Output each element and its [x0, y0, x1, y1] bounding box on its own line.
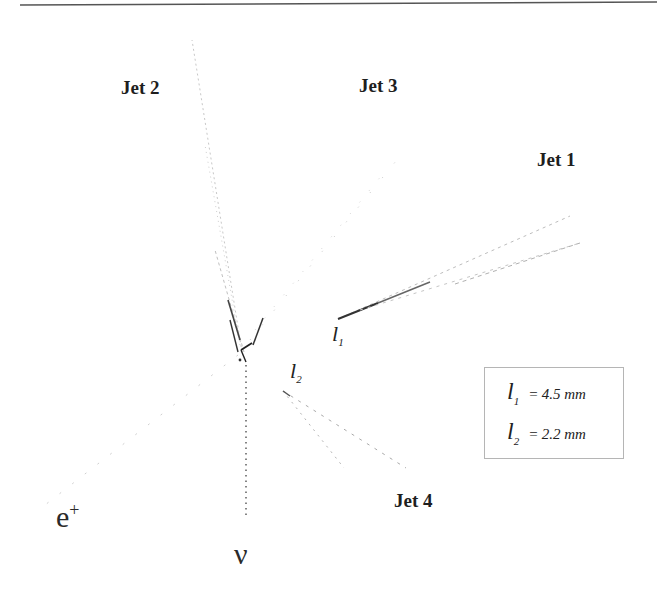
legend-row-l2: l2 = 2.2 mm: [507, 418, 586, 447]
legend-row-l1: l1 = 4.5 mm: [507, 378, 586, 407]
event-display-canvas: [0, 0, 657, 593]
l2-marker: l2: [290, 358, 302, 385]
neutrino-label: ν: [234, 537, 248, 571]
positron-track: [45, 355, 238, 505]
jet4-tracks: [283, 391, 406, 468]
legend-l2-symbol: l2: [507, 418, 519, 444]
jet4-label: Jet 4: [394, 490, 433, 512]
jet2-label: Jet 2: [121, 77, 160, 99]
legend-l1-value: 4.5 mm: [542, 386, 586, 402]
decay-length-legend: l1 = 4.5 mm l2 = 2.2 mm: [484, 367, 624, 459]
jet3-label: Jet 3: [359, 75, 398, 97]
l1-marker: l1: [332, 321, 344, 348]
jet3-tracks: [250, 150, 405, 345]
jet2-tracks: [192, 40, 244, 352]
positron-label: e+: [56, 500, 79, 534]
jet1-label: Jet 1: [537, 149, 576, 171]
legend-l1-equals: =: [529, 386, 537, 402]
legend-l2-value: 2.2 mm: [542, 426, 586, 442]
legend-l2-equals: =: [529, 426, 537, 442]
top-border-line: [20, 2, 657, 5]
jet1-tracks: [338, 216, 580, 319]
legend-l1-symbol: l1: [507, 378, 519, 404]
